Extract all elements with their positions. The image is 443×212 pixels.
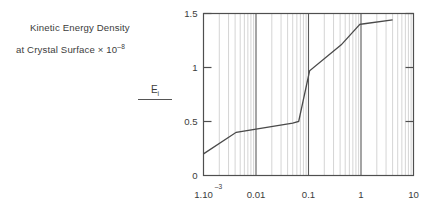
data-series-line bbox=[204, 20, 393, 154]
x-tick-label: 1 bbox=[358, 189, 363, 200]
minor-gridlines bbox=[219, 14, 411, 176]
y-tick-label: 0.5 bbox=[184, 116, 197, 127]
y-tick-label: 1.5 bbox=[184, 8, 197, 19]
figure-root: Kinetic Energy Density at Crystal Surfac… bbox=[0, 0, 443, 212]
chart-plot: 00.511.5 1.10–30.010.1110 bbox=[0, 0, 443, 212]
x-axis-tick-labels: 1.10–30.010.1110 bbox=[194, 183, 419, 200]
x-tick-label: 1.10 bbox=[194, 189, 213, 200]
x-tick-label: 10 bbox=[408, 189, 419, 200]
y-axis-tick-labels: 00.511.5 bbox=[184, 8, 197, 181]
x-tick-label: 0.01 bbox=[247, 189, 266, 200]
x-tick-label: 0.1 bbox=[302, 189, 315, 200]
x-tick-label-exponent: –3 bbox=[215, 183, 223, 190]
y-tick-label: 1 bbox=[192, 62, 197, 73]
y-tick-label: 0 bbox=[192, 170, 197, 181]
